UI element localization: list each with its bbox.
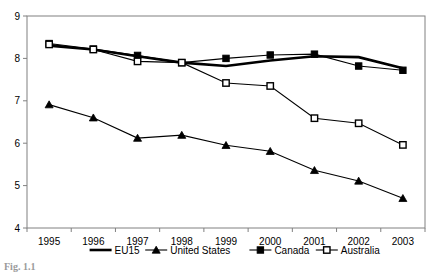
x-tick-label: 1995 bbox=[38, 236, 61, 247]
data-point bbox=[267, 52, 273, 58]
legend-marker bbox=[324, 247, 330, 253]
y-tick-label: 9 bbox=[14, 11, 20, 22]
legend-item-united-states[interactable]: United States bbox=[145, 245, 230, 256]
x-tick-label: 1996 bbox=[82, 236, 105, 247]
x-axis-ticks bbox=[27, 228, 425, 232]
data-point bbox=[311, 51, 317, 57]
data-point bbox=[134, 58, 140, 64]
y-axis-ticks bbox=[23, 16, 27, 228]
legend-label: Canada bbox=[274, 245, 309, 256]
y-tick-label: 7 bbox=[14, 95, 20, 106]
legend-label: United States bbox=[170, 245, 230, 256]
data-point bbox=[355, 120, 361, 126]
data-point bbox=[311, 115, 317, 121]
data-point bbox=[267, 83, 273, 89]
legend-label: Australia bbox=[341, 245, 380, 256]
y-tick-label: 8 bbox=[14, 53, 20, 64]
data-point bbox=[400, 67, 406, 73]
data-point bbox=[179, 59, 185, 65]
y-tick-label: 5 bbox=[14, 180, 20, 191]
data-point bbox=[400, 142, 406, 148]
figure-caption: Fig. 1.1 bbox=[4, 261, 35, 272]
data-point bbox=[223, 55, 229, 61]
data-point bbox=[90, 46, 96, 52]
legend-item-australia[interactable]: Australia bbox=[316, 245, 380, 256]
y-tick-label: 4 bbox=[14, 223, 20, 234]
y-tick-label: 6 bbox=[14, 138, 20, 149]
data-point bbox=[355, 63, 361, 69]
x-tick-label: 2003 bbox=[392, 236, 415, 247]
data-point bbox=[223, 80, 229, 86]
legend-label: EU15 bbox=[115, 245, 140, 256]
data-point bbox=[46, 41, 52, 47]
y-axis-labels: 456789 bbox=[14, 11, 20, 234]
legend-marker bbox=[257, 247, 263, 253]
